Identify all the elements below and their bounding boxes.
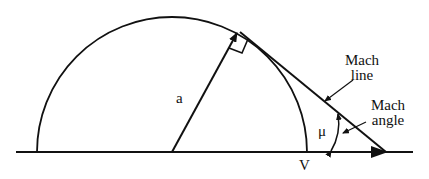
mach-line-label-1: Mach: [342, 53, 382, 68]
mach-angle-pointer: [343, 122, 366, 133]
mach-angle-label-1: Mach: [366, 98, 410, 113]
wave-circle-arc: [37, 17, 307, 152]
mach-angle-label-2: angle: [366, 113, 410, 128]
mach-line-label-2: line: [342, 68, 382, 83]
mu-label: μ: [318, 124, 326, 139]
velocity-label: V: [299, 158, 310, 173]
mach-angle-arc: [331, 114, 339, 151]
radius-label: a: [176, 91, 183, 106]
diagram-graphics: [0, 0, 429, 179]
mach-line: [240, 32, 386, 152]
mach-line-pointer: [325, 80, 353, 101]
mach-cone-diagram: a V Mach line Mach angle μ: [0, 0, 429, 179]
